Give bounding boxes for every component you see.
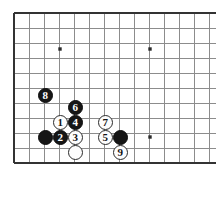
stone-move-number: 4 <box>73 116 78 127</box>
stone-3[interactable]: 3 <box>68 130 83 145</box>
stone-move-number: 7 <box>103 116 108 127</box>
stone-2[interactable]: 2 <box>53 130 68 145</box>
stone-5[interactable]: 5 <box>98 130 113 145</box>
stone-move-number: 9 <box>118 146 123 157</box>
stone-black-corner[interactable] <box>38 130 53 145</box>
stone-move-number: 8 <box>43 89 48 100</box>
stone-move-number: 2 <box>58 131 63 142</box>
stone-4[interactable]: 4 <box>68 115 83 130</box>
stone-move-number: 5 <box>103 131 108 142</box>
stone-move-number: 1 <box>58 116 63 127</box>
go-board-diagram: 861472359 <box>0 0 216 198</box>
stone-1[interactable]: 1 <box>53 115 68 130</box>
stone-9[interactable]: 9 <box>113 145 128 160</box>
star-point-bottom-right <box>148 135 151 138</box>
stone-move-number: 3 <box>73 131 78 142</box>
stone-7[interactable]: 7 <box>98 115 113 130</box>
star-point-top-left <box>58 47 61 50</box>
stone-move-number: 6 <box>73 101 78 112</box>
stone-6[interactable]: 6 <box>68 100 83 115</box>
stone-white-blank[interactable] <box>68 145 83 160</box>
stone-8[interactable]: 8 <box>38 88 53 103</box>
star-point-top-right <box>148 47 151 50</box>
stone-black-right[interactable] <box>113 130 128 145</box>
goban-grid <box>0 0 216 198</box>
